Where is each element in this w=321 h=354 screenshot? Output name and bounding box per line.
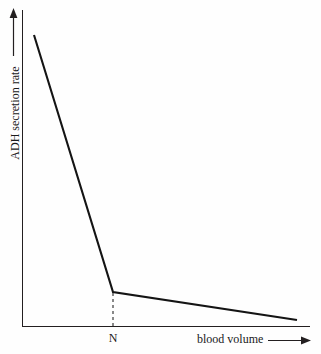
chart-figure: ADH secretion rate blood volume N	[0, 0, 321, 354]
up-arrow-icon	[10, 8, 18, 18]
y-axis-label: ADH secretion rate	[9, 55, 21, 171]
x-axis-label: blood volume	[197, 333, 263, 345]
chart-canvas	[0, 0, 321, 354]
x-axis-tick-label-normal: N	[106, 332, 120, 344]
adh-secretion-curve	[34, 35, 297, 320]
right-arrow-icon	[301, 337, 311, 345]
